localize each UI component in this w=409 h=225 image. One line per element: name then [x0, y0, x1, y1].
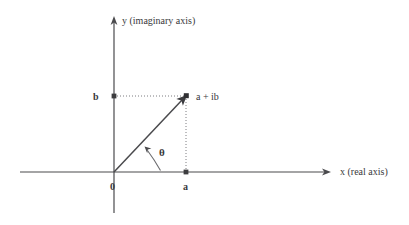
angle-label: θ	[159, 147, 165, 158]
complex-point-label: a + ib	[196, 92, 219, 102]
imaginary-part-label: b	[93, 92, 99, 102]
x-axis-label: x (real axis)	[340, 167, 388, 177]
argand-diagram-svg	[0, 0, 409, 225]
b-tick-mark	[112, 94, 117, 99]
a-tick-mark	[184, 170, 189, 175]
origin-label: 0	[110, 182, 115, 192]
complex-point-marker	[184, 93, 189, 98]
angle-arc-arrowhead	[145, 147, 152, 154]
complex-vector-line	[114, 100, 183, 173]
y-axis-label: y (imaginary axis)	[122, 16, 195, 26]
figure-canvas: y (imaginary axis) x (real axis) a + ib …	[0, 0, 409, 225]
real-part-label: a	[183, 182, 188, 192]
